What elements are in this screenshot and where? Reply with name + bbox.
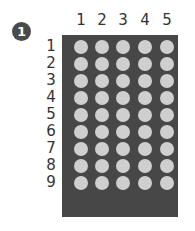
grid-dot: [160, 159, 174, 173]
row-label: 8: [44, 157, 58, 174]
grid-dot: [160, 176, 174, 190]
grid-dot: [116, 40, 130, 54]
column-label: 2: [92, 10, 112, 30]
grid-dot: [95, 125, 109, 139]
column-label: 1: [71, 10, 91, 30]
column-label: 4: [135, 10, 155, 30]
row-label: 2: [44, 55, 58, 72]
grid-dot: [138, 142, 152, 156]
row-label: 1: [44, 38, 58, 55]
grid-dot: [74, 176, 88, 190]
grid-dot: [160, 142, 174, 156]
grid-dot: [138, 108, 152, 122]
row-label: 7: [44, 140, 58, 157]
grid-dot: [95, 142, 109, 156]
grid-dot: [116, 108, 130, 122]
grid-dot: [160, 91, 174, 105]
grid-dot: [116, 142, 130, 156]
grid-dot: [74, 108, 88, 122]
grid-dot: [138, 74, 152, 88]
grid-dot: [95, 91, 109, 105]
grid-dot: [74, 159, 88, 173]
grid-dot: [95, 57, 109, 71]
row-label: 9: [44, 174, 58, 191]
grid-dot: [74, 125, 88, 139]
grid-dot: [95, 159, 109, 173]
grid-dot: [74, 74, 88, 88]
grid-dot: [74, 91, 88, 105]
grid-dot: [160, 74, 174, 88]
row-label: 4: [44, 89, 58, 106]
step-number-badge: 1: [12, 22, 31, 41]
grid-dot: [138, 40, 152, 54]
column-label: 5: [157, 10, 177, 30]
grid-dot: [160, 57, 174, 71]
grid-dot: [116, 74, 130, 88]
grid-dot: [74, 57, 88, 71]
grid-dot: [74, 142, 88, 156]
grid-dot: [95, 176, 109, 190]
grid-dot: [116, 176, 130, 190]
grid-dot: [138, 125, 152, 139]
grid-dot: [74, 40, 88, 54]
row-label: 6: [44, 123, 58, 140]
grid-dot: [95, 74, 109, 88]
grid-dot: [95, 108, 109, 122]
grid-dot: [138, 57, 152, 71]
row-label: 5: [44, 106, 58, 123]
row-label: 3: [44, 72, 58, 89]
grid-dot: [116, 91, 130, 105]
grid-dot: [116, 159, 130, 173]
grid-dot: [160, 40, 174, 54]
grid-dot: [160, 108, 174, 122]
column-label: 3: [113, 10, 133, 30]
grid-dot: [116, 125, 130, 139]
grid-dot: [116, 57, 130, 71]
grid-dot: [138, 159, 152, 173]
grid-dot: [138, 176, 152, 190]
grid-dot: [160, 125, 174, 139]
dot-grid-panel: [62, 35, 178, 217]
grid-dot: [95, 40, 109, 54]
grid-dot: [138, 91, 152, 105]
